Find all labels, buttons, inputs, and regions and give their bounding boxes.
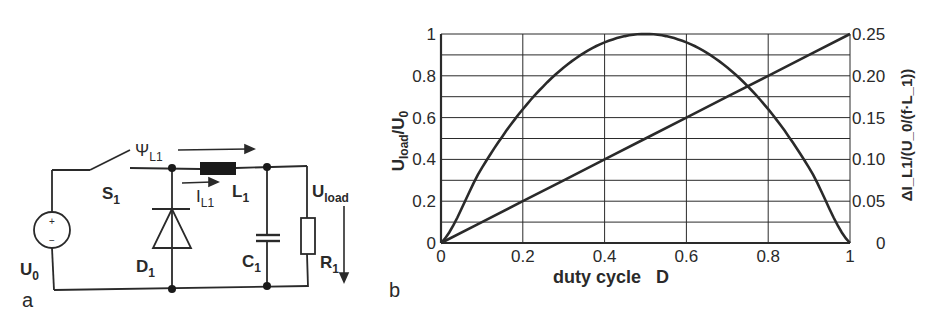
figure: ΨL1 S1 IL1 L1 Uload D1 C1 R1 U0 + − a 00… — [0, 0, 930, 328]
panel-a-label: a — [22, 289, 34, 311]
y2-tick-label: 0.10 — [852, 150, 885, 169]
svg-text:Uload/U0: Uload/U0 — [389, 110, 411, 171]
x-tick-label: 0 — [436, 247, 445, 266]
svg-text:ΔI_L1/(U_0/(f·L_1)): ΔI_L1/(U_0/(f·L_1)) — [898, 69, 915, 201]
y2-tick-label: 0.20 — [852, 67, 885, 86]
y-axis-label: Uload/U0 — [389, 110, 411, 171]
y2-tick-label: 0.25 — [852, 25, 885, 44]
y-tick-label: 0.6 — [412, 109, 436, 128]
x-tick-label: 0.8 — [756, 247, 780, 266]
figure-canvas: ΨL1 S1 IL1 L1 Uload D1 C1 R1 U0 + − a 00… — [0, 0, 930, 328]
y-tick-label: 0.4 — [412, 150, 436, 169]
y-tick-label: 0.8 — [412, 67, 436, 86]
current-label: IL1 — [196, 187, 214, 210]
y2-tick-label: 0.05 — [852, 192, 885, 211]
capacitor-label: C1 — [242, 252, 261, 275]
flux-label: ΨL1 — [135, 141, 163, 164]
switch-s1 — [90, 150, 130, 170]
x-tick-label: 0.4 — [593, 247, 617, 266]
minus-sign: − — [49, 235, 55, 246]
y-tick-label: 0.2 — [412, 192, 436, 211]
plus-sign: + — [49, 216, 55, 227]
y2-tick-label: 0.15 — [852, 109, 885, 128]
x-tick-label: 0.2 — [511, 247, 535, 266]
load-voltage-label: Uload — [312, 182, 349, 205]
switch-label: S1 — [102, 184, 120, 207]
inductor-label: L1 — [232, 182, 249, 205]
x-tick-label: 1 — [845, 247, 854, 266]
current-arrow — [182, 182, 212, 183]
y2-axis-label: ΔI_L1/(U_0/(f·L_1)) — [898, 69, 915, 201]
source-label: U0 — [20, 260, 39, 283]
y-tick-label: 1 — [427, 25, 436, 44]
flux-arrow — [178, 149, 248, 150]
resistor-r1 — [301, 218, 315, 254]
inductor-l1 — [200, 162, 236, 175]
x-axis-label: duty cycle D — [553, 267, 669, 287]
x-tick-label: 0.6 — [675, 247, 699, 266]
y-tick-label: 0 — [427, 234, 436, 253]
panel-b-label: b — [389, 279, 400, 301]
resistor-label: R1 — [320, 253, 339, 276]
chart-plot: 00.20.40.60.8100.20.40.60.8100.050.100.1… — [412, 25, 885, 266]
y2-tick-label: 0 — [876, 234, 885, 253]
diode-label: D1 — [136, 257, 155, 280]
